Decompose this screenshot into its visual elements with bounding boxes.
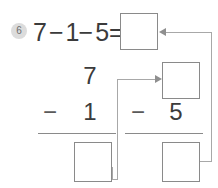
equation-operand-2: 1 — [66, 18, 77, 47]
problem-number-badge: 6 — [11, 23, 27, 39]
final-answer-box[interactable] — [120, 13, 158, 50]
right-subproblem-rule — [125, 133, 203, 134]
arrow-left-icon — [159, 28, 166, 36]
left-subproblem-rule — [38, 133, 116, 134]
connector-right-to-top-segment-2 — [211, 32, 212, 162]
left-subproblem-subtrahend: 1 — [78, 98, 102, 126]
left-subproblem-answer-box[interactable] — [74, 142, 112, 182]
equation-operand-1: 7 — [33, 18, 47, 47]
equation-minus-2: − — [77, 18, 96, 47]
right-subproblem-answer-box[interactable] — [162, 142, 200, 182]
connector-left-to-middle-segment-4 — [117, 79, 157, 80]
arrow-right-icon — [155, 75, 162, 83]
intermediate-minuend-box[interactable] — [162, 62, 200, 99]
worksheet-canvas: 6 7 − 1 − 5 = 7 − 1 − 5 — [0, 0, 218, 188]
horizontal-equation: 7 − 1 − 5 = — [33, 17, 124, 47]
connector-left-to-middle-segment-3 — [117, 79, 118, 180]
equation-operand-3: 5 — [95, 18, 109, 47]
left-subproblem-minuend: 7 — [78, 62, 102, 90]
equation-minus-1: − — [47, 18, 66, 47]
right-subproblem-minus-sign: − — [131, 98, 145, 126]
right-subproblem-subtrahend: 5 — [164, 98, 188, 126]
left-subproblem-minus-sign: − — [43, 98, 57, 126]
connector-right-to-top-segment-3 — [163, 32, 212, 33]
